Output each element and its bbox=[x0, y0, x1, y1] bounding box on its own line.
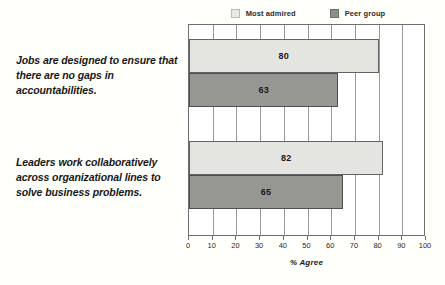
most-admired-swatch-icon bbox=[231, 9, 240, 18]
axis-tick-label: 60 bbox=[326, 241, 334, 250]
legend-label-most-admired: Most admired bbox=[246, 9, 296, 18]
axis-tick-mark bbox=[307, 236, 308, 240]
bar: 82 bbox=[189, 141, 383, 175]
legend-entry-peer-group: Peer group bbox=[330, 9, 386, 18]
x-axis-title: % Agree bbox=[188, 258, 425, 267]
bar-group: 80638265 bbox=[189, 25, 424, 235]
axis-tick-mark bbox=[212, 236, 213, 240]
axis-tick-mark bbox=[283, 236, 284, 240]
axis-tick-mark bbox=[354, 236, 355, 240]
axis-tick-label: 100 bbox=[419, 241, 432, 250]
bar: 80 bbox=[189, 39, 379, 73]
chart-page: Most admired Peer group Jobs are designe… bbox=[0, 0, 445, 285]
axis-tick-label: 50 bbox=[302, 241, 310, 250]
x-axis-tick-labels: 0102030405060708090100 bbox=[188, 241, 425, 253]
peer-group-swatch-icon bbox=[330, 9, 339, 18]
axis-tick-label: 10 bbox=[208, 241, 216, 250]
axis-tick-mark bbox=[259, 236, 260, 240]
axis-tick-label: 80 bbox=[373, 241, 381, 250]
bar-value-label: 82 bbox=[281, 153, 291, 163]
axis-tick-mark bbox=[401, 236, 402, 240]
axis-tick-label: 30 bbox=[255, 241, 263, 250]
bar-value-label: 65 bbox=[261, 187, 271, 197]
axis-tick-label: 40 bbox=[279, 241, 287, 250]
axis-tick-mark bbox=[330, 236, 331, 240]
axis-tick-label: 0 bbox=[186, 241, 190, 250]
category-caption-1: Leaders work collaboratively across orga… bbox=[16, 155, 184, 200]
axis-tick-mark bbox=[188, 236, 189, 240]
axis-tick-label: 20 bbox=[231, 241, 239, 250]
axis-tick-label: 70 bbox=[350, 241, 358, 250]
axis-tick-mark bbox=[378, 236, 379, 240]
category-caption-0: Jobs are designed to ensure that there a… bbox=[16, 53, 184, 98]
legend-entry-most-admired: Most admired bbox=[231, 9, 296, 18]
axis-tick-mark bbox=[425, 236, 426, 240]
chart-legend: Most admired Peer group bbox=[188, 4, 428, 22]
plot-area: 80638265 bbox=[188, 24, 425, 236]
bar-value-label: 63 bbox=[258, 85, 268, 95]
axis-tick-label: 90 bbox=[397, 241, 405, 250]
bar: 65 bbox=[189, 175, 343, 209]
axis-tick-mark bbox=[235, 236, 236, 240]
legend-label-peer-group: Peer group bbox=[345, 9, 386, 18]
bar-value-label: 80 bbox=[279, 51, 289, 61]
bar: 63 bbox=[189, 73, 338, 107]
